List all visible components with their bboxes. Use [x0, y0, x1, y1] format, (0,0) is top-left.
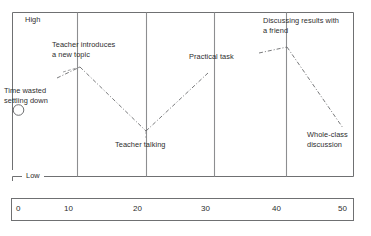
time-tick-40: 40: [272, 204, 281, 213]
time-tick-30: 30: [201, 204, 210, 213]
lesson-engagement-figure: High Low Time wasted settling down Teach…: [0, 0, 371, 236]
label-leader-lines: [63, 67, 146, 138]
time-tick-10: 10: [64, 204, 73, 213]
annotation-discussing-results-with-a-friend: Discussing results with a friend: [263, 16, 339, 35]
annotation-teacher-introduces-new-topic: Teacher introduces a new topic: [52, 40, 115, 59]
axis-label-high: High: [25, 15, 40, 25]
time-tick-20: 20: [133, 204, 142, 213]
time-tick-50: 50: [338, 204, 347, 213]
time-wasted-marker: [13, 105, 24, 116]
chart-canvas: [0, 0, 371, 236]
time-tick-0: 0: [16, 204, 20, 213]
axis-label-low: Low: [24, 171, 42, 181]
time-axis-box: [12, 199, 354, 221]
annotation-time-wasted: Time wasted settling down: [4, 86, 48, 105]
annotation-teacher-talking: Teacher talking: [115, 140, 165, 150]
annotation-practical-task: Practical task: [189, 52, 234, 62]
annotation-whole-class-discussion: Whole-class discussion: [307, 130, 348, 149]
